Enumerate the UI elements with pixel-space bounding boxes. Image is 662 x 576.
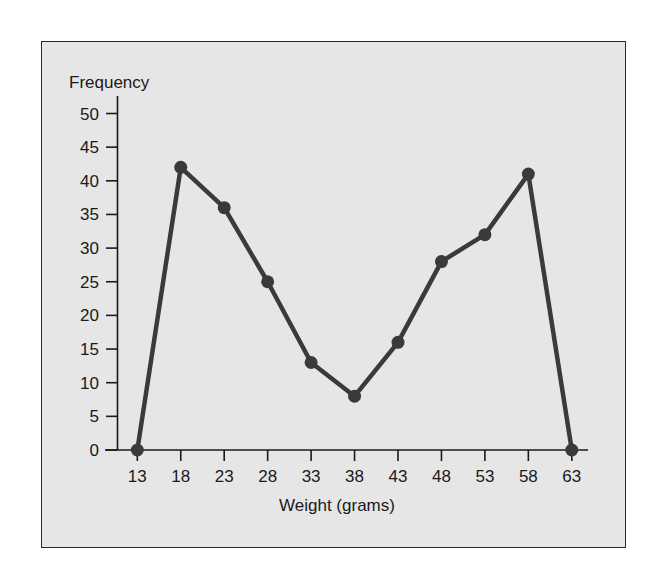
data-point-marker (218, 201, 231, 214)
data-point-marker (392, 336, 405, 349)
data-point-marker (522, 168, 535, 181)
data-point-marker (478, 228, 491, 241)
data-point-marker (348, 390, 361, 403)
y-tick-label: 15 (80, 340, 99, 359)
x-tick-label: 63 (562, 467, 581, 486)
data-point-marker (261, 275, 274, 288)
x-tick-label: 53 (475, 467, 494, 486)
y-tick-label: 45 (80, 138, 99, 157)
y-tick-label: 5 (90, 407, 99, 426)
frequency-polygon-chart: Frequency 05101520253035404550 131823283… (0, 0, 662, 576)
y-axis: 05101520253035404550 (80, 96, 117, 460)
y-tick-label: 10 (80, 374, 99, 393)
x-tick-label: 48 (432, 467, 451, 486)
y-tick-label: 20 (80, 306, 99, 325)
y-tick-label: 40 (80, 172, 99, 191)
data-point-marker (565, 444, 578, 457)
x-tick-label: 18 (171, 467, 190, 486)
y-tick-label: 30 (80, 239, 99, 258)
x-tick-label: 23 (215, 467, 234, 486)
x-tick-label: 43 (389, 467, 408, 486)
x-tick-label: 33 (302, 467, 321, 486)
data-point-marker (305, 356, 318, 369)
y-axis-label: Frequency (69, 73, 150, 92)
y-tick-label: 0 (90, 441, 99, 460)
data-point-marker (435, 255, 448, 268)
x-tick-label: 38 (345, 467, 364, 486)
data-point-marker (131, 444, 144, 457)
x-axis: 1318232833384348535863 (105, 450, 588, 486)
data-point-marker (174, 161, 187, 174)
y-tick-label: 35 (80, 205, 99, 224)
x-tick-label: 28 (258, 467, 277, 486)
frequency-line (137, 167, 572, 450)
x-tick-label: 58 (519, 467, 538, 486)
x-axis-label: Weight (grams) (279, 496, 395, 515)
y-tick-label: 50 (80, 105, 99, 124)
x-tick-label: 13 (128, 467, 147, 486)
data-series (131, 161, 579, 457)
y-tick-label: 25 (80, 273, 99, 292)
